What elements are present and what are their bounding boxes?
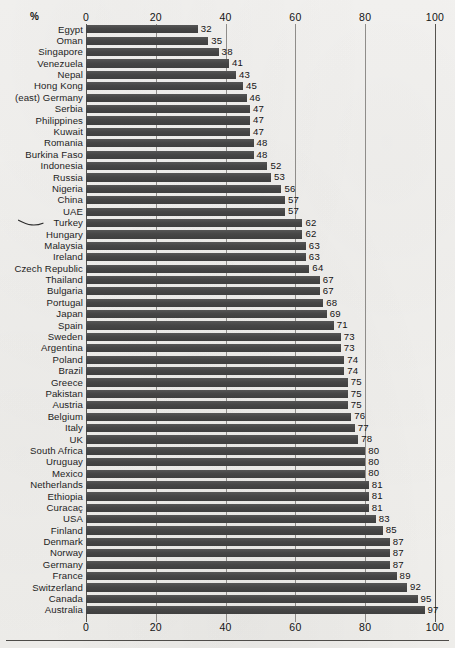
bar[interactable] [86, 606, 425, 614]
bar[interactable] [86, 538, 390, 546]
bar-row[interactable]: Pakistan75 [0, 389, 455, 400]
bar-row[interactable]: South Africa80 [0, 445, 455, 456]
bar-row[interactable]: Egypt32 [0, 24, 455, 35]
bar[interactable] [86, 219, 302, 227]
bar-row[interactable]: Romania48 [0, 138, 455, 149]
bar-row[interactable]: Canada95 [0, 594, 455, 605]
bar-row[interactable]: Philippines47 [0, 115, 455, 126]
bar[interactable] [86, 526, 383, 534]
bar[interactable] [86, 276, 320, 284]
bar-row[interactable]: Nepal43 [0, 70, 455, 81]
bar-row[interactable]: Japan69 [0, 309, 455, 320]
bar[interactable] [86, 561, 390, 569]
bar-row[interactable]: Ethiopia81 [0, 491, 455, 502]
bar[interactable] [86, 390, 348, 398]
bar[interactable] [86, 344, 341, 352]
bar[interactable] [86, 458, 365, 466]
bar[interactable] [86, 230, 302, 238]
bar[interactable] [86, 116, 250, 124]
bar[interactable] [86, 253, 306, 261]
bar[interactable] [86, 82, 243, 90]
bar-row[interactable]: Thailand67 [0, 275, 455, 286]
bar-row[interactable]: Ireland63 [0, 252, 455, 263]
bar[interactable] [86, 299, 323, 307]
bar[interactable] [86, 447, 365, 455]
bar-row[interactable]: Hungary62 [0, 229, 455, 240]
bar-row[interactable]: (east) Germany46 [0, 92, 455, 103]
bar-row[interactable]: Bulgaria67 [0, 286, 455, 297]
bar-row[interactable]: Belgium76 [0, 411, 455, 422]
bar-row[interactable]: Czech Republic64 [0, 263, 455, 274]
bar-row[interactable]: Kuwait47 [0, 127, 455, 138]
bar-row[interactable]: Finland85 [0, 525, 455, 536]
bar-row[interactable]: Netherlands81 [0, 480, 455, 491]
bar-row[interactable]: Serbia47 [0, 104, 455, 115]
bar-row[interactable]: Venezuela41 [0, 58, 455, 69]
bar[interactable] [86, 173, 271, 181]
bar[interactable] [86, 242, 306, 250]
bar[interactable] [86, 492, 369, 500]
bar[interactable] [86, 151, 254, 159]
bar[interactable] [86, 59, 229, 67]
bar-row[interactable]: Nigeria56 [0, 183, 455, 194]
bar[interactable] [86, 515, 376, 523]
bar[interactable] [86, 208, 285, 216]
bar-row[interactable]: Italy77 [0, 423, 455, 434]
bar-row[interactable]: Austria75 [0, 400, 455, 411]
bar[interactable] [86, 572, 397, 580]
bar[interactable] [86, 162, 267, 170]
bar[interactable] [86, 424, 355, 432]
bar[interactable] [86, 105, 250, 113]
bar[interactable] [86, 287, 320, 295]
bar[interactable] [86, 321, 334, 329]
bar[interactable] [86, 94, 247, 102]
bar[interactable] [86, 413, 351, 421]
bar[interactable] [86, 196, 285, 204]
bar-row[interactable]: Burkina Faso48 [0, 149, 455, 160]
bar[interactable] [86, 310, 327, 318]
bar[interactable] [86, 71, 236, 79]
bar[interactable] [86, 333, 341, 341]
bar[interactable] [86, 583, 407, 591]
bar-row[interactable]: Switzerland92 [0, 582, 455, 593]
bar[interactable] [86, 504, 369, 512]
bar-row[interactable]: Spain71 [0, 320, 455, 331]
bar-row[interactable]: France89 [0, 571, 455, 582]
bar[interactable] [86, 185, 281, 193]
bar-row[interactable]: Norway87 [0, 548, 455, 559]
bar[interactable] [86, 265, 309, 273]
bar[interactable] [86, 470, 365, 478]
bar-row[interactable]: Singapore38 [0, 47, 455, 58]
bar-row[interactable]: Brazil74 [0, 366, 455, 377]
bar-row[interactable]: Turkey62 [0, 218, 455, 229]
bar-row[interactable]: Argentina73 [0, 343, 455, 354]
bar-row[interactable]: Uruguay80 [0, 457, 455, 468]
bar-row[interactable]: Poland74 [0, 354, 455, 365]
bar-row[interactable]: Denmark87 [0, 537, 455, 548]
bar[interactable] [86, 128, 250, 136]
bar-row[interactable]: Hong Kong45 [0, 81, 455, 92]
bar-row[interactable]: Mexico80 [0, 468, 455, 479]
bar[interactable] [86, 25, 198, 33]
bar-row[interactable]: Indonesia52 [0, 161, 455, 172]
bar[interactable] [86, 435, 358, 443]
bar[interactable] [86, 48, 219, 56]
bar[interactable] [86, 37, 208, 45]
bar-row[interactable]: Malaysia63 [0, 240, 455, 251]
bar-row[interactable]: Greece75 [0, 377, 455, 388]
bar[interactable] [86, 378, 348, 386]
bar-row[interactable]: Germany87 [0, 559, 455, 570]
bar-row[interactable]: UAE57 [0, 206, 455, 217]
bar[interactable] [86, 481, 369, 489]
bar[interactable] [86, 549, 390, 557]
bar[interactable] [86, 401, 348, 409]
bar[interactable] [86, 595, 418, 603]
bar-row[interactable]: Russia53 [0, 172, 455, 183]
bar-row[interactable]: Portugal68 [0, 297, 455, 308]
bar[interactable] [86, 139, 254, 147]
bar-row[interactable]: Sweden73 [0, 332, 455, 343]
bar-row[interactable]: Australia97 [0, 605, 455, 616]
bar-row[interactable]: UK78 [0, 434, 455, 445]
bar-row[interactable]: China57 [0, 195, 455, 206]
bar[interactable] [86, 367, 344, 375]
